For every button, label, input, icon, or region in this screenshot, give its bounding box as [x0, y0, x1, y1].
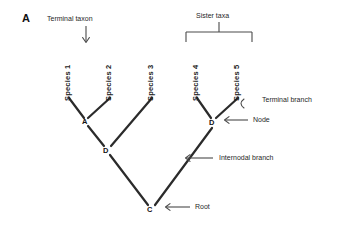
root-label: Root	[195, 203, 210, 210]
tree-branches	[69, 98, 238, 205]
taxon-label-species-4: Species 4	[191, 65, 200, 101]
left-arrow-icon-node	[225, 117, 249, 124]
down-arrow-icon	[83, 26, 90, 43]
left-arrow-icon-internodal	[186, 155, 214, 162]
node-label-c-root: C	[147, 205, 152, 214]
branch-species5	[216, 98, 238, 118]
taxon-label-species-3: Species 3	[146, 65, 155, 101]
terminal-branch-label: Terminal branch	[262, 96, 312, 103]
bracket-icon	[186, 22, 252, 42]
branch-species2	[88, 98, 110, 118]
branch-d-to-root	[110, 155, 148, 205]
node-label-d-center: D	[103, 146, 108, 155]
taxon-label-species-5: Species 5	[232, 65, 241, 101]
sister-taxa-label: Sister taxa	[196, 12, 229, 19]
node-label-a: A	[82, 117, 87, 126]
branch-species1	[69, 98, 84, 118]
panel-letter: A	[22, 12, 30, 24]
terminal-taxon-label: Terminal taxon	[47, 15, 93, 22]
node-label-d-right: D	[209, 118, 214, 127]
node-annotation-label: Node	[253, 116, 270, 123]
taxon-label-species-1: Species 1	[63, 65, 72, 101]
taxon-label-species-2: Species 2	[104, 65, 113, 101]
curved-pointer-icon	[241, 99, 244, 108]
branch-a-to-d	[88, 126, 104, 146]
phylogenetic-tree-figure: A Terminal taxon Sister taxa Species 1 S…	[0, 0, 338, 228]
branch-internodal	[155, 128, 212, 205]
internodal-branch-label: Internodal branch	[219, 154, 273, 161]
branch-species3	[111, 98, 152, 146]
left-arrow-icon-root	[166, 204, 191, 211]
tree-drawing	[0, 0, 338, 228]
branch-species4	[197, 98, 211, 118]
